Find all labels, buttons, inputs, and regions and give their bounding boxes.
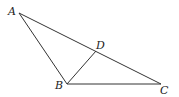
segment-ab xyxy=(19,13,67,84)
triangle-diagram: A D B C xyxy=(0,0,179,97)
label-c: C xyxy=(160,84,169,97)
label-a: A xyxy=(7,5,16,18)
segment-ac xyxy=(19,13,161,84)
label-b: B xyxy=(54,79,63,92)
label-d: D xyxy=(95,39,105,52)
segment-bd xyxy=(67,51,96,84)
